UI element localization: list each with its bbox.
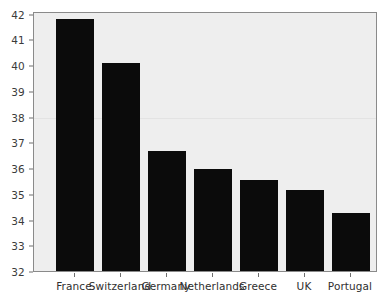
- y-tick-mark: [29, 66, 33, 67]
- x-tick-mark: [74, 273, 75, 277]
- x-tick-label-france: France: [56, 280, 92, 292]
- x-tick-mark: [258, 273, 259, 277]
- y-tick-label: 37: [11, 137, 25, 149]
- y-tick-label: 36: [11, 163, 25, 175]
- y-tick-label: 35: [11, 189, 25, 201]
- x-tick-mark: [350, 273, 351, 277]
- y-tick-mark: [29, 194, 33, 195]
- y-tick-label: 33: [11, 240, 25, 252]
- x-tick-mark: [166, 273, 167, 277]
- y-tick-label: 34: [11, 215, 25, 227]
- y-tick-label: 41: [11, 34, 25, 46]
- bar-germany[interactable]: [148, 151, 186, 271]
- bar-uk[interactable]: [286, 190, 324, 271]
- plot-area: [33, 12, 377, 272]
- y-tick-mark: [29, 40, 33, 41]
- y-tick-mark: [29, 220, 33, 221]
- y-tick-mark: [29, 169, 33, 170]
- x-tick-mark: [212, 273, 213, 277]
- x-axis: FranceSwitzerlandGermanyNetherlandsGreec…: [0, 272, 389, 306]
- y-tick-mark: [29, 143, 33, 144]
- y-tick-mark: [29, 91, 33, 92]
- y-axis: 3233343536373839404142: [0, 0, 33, 306]
- y-tick-mark: [29, 14, 33, 15]
- x-tick-label-greece: Greece: [239, 280, 277, 292]
- bars-layer: [34, 13, 376, 271]
- x-tick-label-netherlands: Netherlands: [179, 280, 244, 292]
- y-tick-label: 39: [11, 86, 25, 98]
- y-tick-label: 40: [11, 60, 25, 72]
- x-tick-label-uk: UK: [297, 280, 312, 292]
- x-tick-mark: [120, 273, 121, 277]
- y-tick-mark: [29, 246, 33, 247]
- y-tick-label: 38: [11, 112, 25, 124]
- bar-portugal[interactable]: [332, 213, 370, 271]
- bar-greece[interactable]: [240, 180, 278, 271]
- x-tick-mark: [304, 273, 305, 277]
- y-tick-label: 42: [11, 9, 25, 21]
- bar-switzerland[interactable]: [102, 63, 140, 272]
- bar-chart: 3233343536373839404142 FranceSwitzerland…: [0, 0, 389, 306]
- bar-netherlands[interactable]: [194, 169, 232, 271]
- x-tick-label-portugal: Portugal: [328, 280, 372, 292]
- bar-france[interactable]: [56, 19, 94, 271]
- y-tick-mark: [29, 117, 33, 118]
